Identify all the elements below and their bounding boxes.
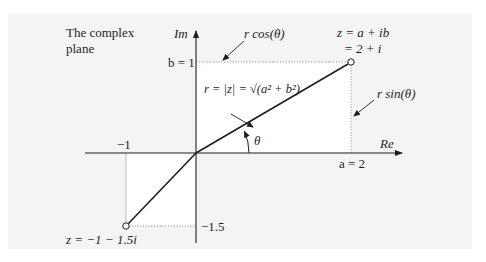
neg-x-tick-label: −1 (117, 137, 131, 152)
imaginary-axis-label: Im (173, 26, 188, 41)
second-point-label: z = −1 − 1.5i (65, 232, 137, 247)
r-sin-label: r sin(θ) (377, 86, 416, 101)
theta-label: θ (254, 133, 261, 148)
first-point-label-line2: = 2 + i (344, 41, 382, 56)
modulus-label: r = |z| = √(a² + b²) (204, 82, 300, 96)
diagram-title-line2: plane (66, 41, 94, 56)
r-cos-label: r cos(θ) (244, 26, 285, 41)
real-axis-label: Re (379, 136, 394, 151)
point-second (123, 223, 129, 229)
neg-y-tick-label: −1.5 (201, 219, 225, 234)
a-tick-label: a = 2 (339, 156, 365, 171)
b-tick-label: b = 1 (168, 55, 195, 70)
point-first (348, 59, 354, 65)
complex-plane-diagram: The complex plane Im Re b = 1 a = 2 −1 −… (0, 0, 486, 262)
first-point-label-line1: z = a + ib (336, 25, 390, 40)
diagram-title-line1: The complex (66, 25, 135, 40)
